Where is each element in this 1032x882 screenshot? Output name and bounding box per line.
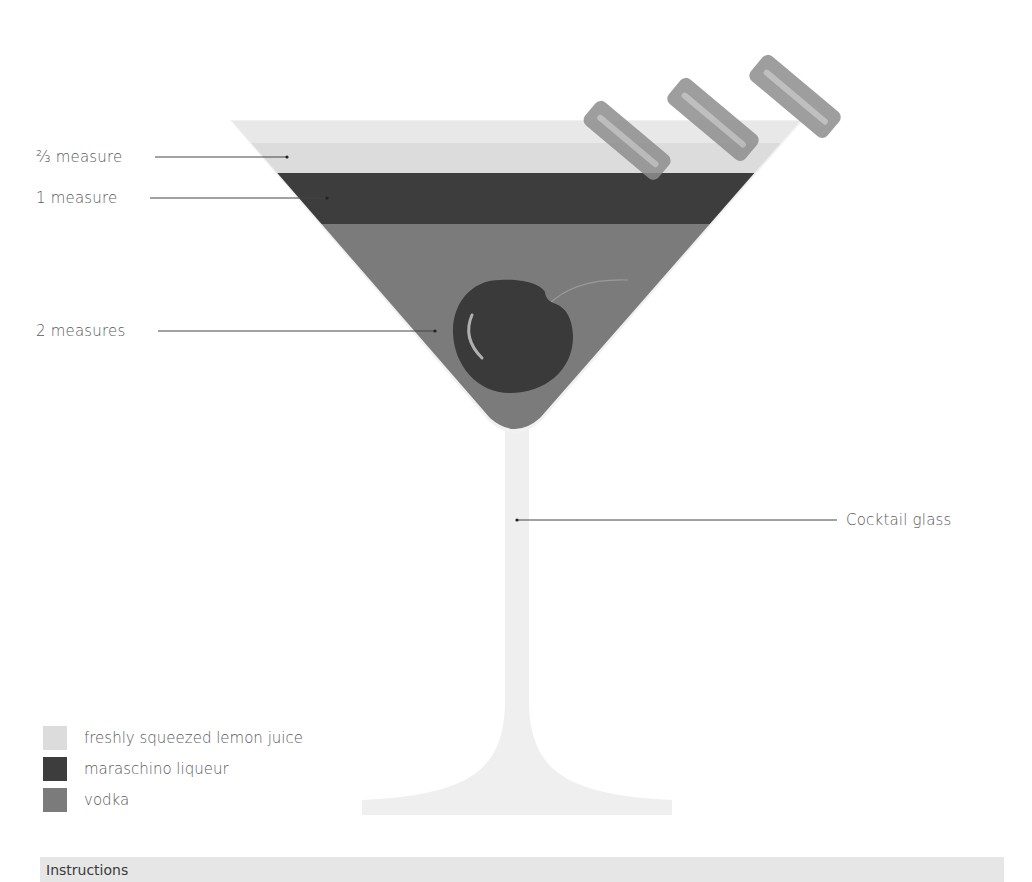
legend-item-maraschino: maraschino liqueur xyxy=(43,753,303,784)
measure-label-maraschino: 1 measure xyxy=(36,189,118,207)
swatch-maraschino xyxy=(43,757,67,781)
legend-label: vodka xyxy=(84,791,129,809)
swatch-lemon xyxy=(43,726,67,750)
swatch-vodka xyxy=(43,788,67,812)
instructions-section-header[interactable]: Instructions xyxy=(40,857,1004,882)
legend-label: freshly squeezed lemon juice xyxy=(84,729,303,747)
glass-label: Cocktail glass xyxy=(846,511,952,529)
glass-stem xyxy=(362,425,672,815)
legend: freshly squeezed lemon juice maraschino … xyxy=(43,722,303,815)
legend-item-vodka: vodka xyxy=(43,784,303,815)
instructions-title: Instructions xyxy=(46,862,128,878)
legend-label: maraschino liqueur xyxy=(84,760,229,778)
legend-item-lemon: freshly squeezed lemon juice xyxy=(43,722,303,753)
measure-label-vodka: 2 measures xyxy=(36,322,126,340)
measure-label-lemon: ⅔ measure xyxy=(36,148,123,166)
